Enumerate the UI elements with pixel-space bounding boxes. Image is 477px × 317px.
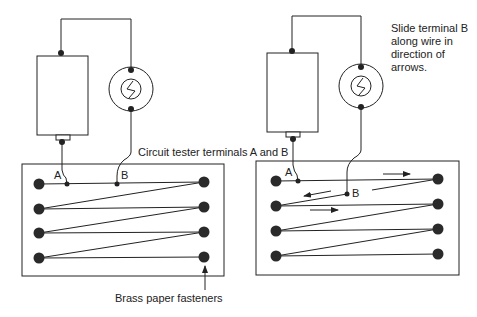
right-bulb-bottom-dot: [358, 104, 364, 110]
instruction-line: direction of: [391, 48, 477, 61]
right-bulb-top-dot: [358, 64, 364, 70]
fastener-icon: [199, 177, 210, 188]
left-battery-bottom-dot: [59, 139, 65, 145]
left-battery: [37, 56, 88, 135]
fastener-icon: [433, 174, 444, 185]
right-battery-top-dot: [289, 48, 295, 54]
fastener-icon: [34, 228, 45, 239]
left-terminal-b-dot: [115, 182, 120, 187]
arrow-left-icon: [304, 191, 331, 196]
left-zigzag-wire: [39, 182, 204, 258]
right-board: [256, 161, 459, 275]
right-wire-a: [293, 139, 298, 181]
right-terminal-b-dot: [345, 192, 350, 197]
fastener-icon: [199, 227, 210, 238]
right-terminal-a-dot: [296, 179, 301, 184]
left-terminal-b-label: B: [121, 169, 128, 181]
right-wire-seg2b: [276, 194, 347, 206]
right-zigzag-wire: [276, 204, 438, 256]
terminals-caption: Circuit tester terminals A and B: [138, 146, 288, 158]
fastener-icon: [271, 226, 282, 237]
fastener-icon: [34, 204, 45, 215]
left-bulb-bottom-dot: [128, 106, 134, 112]
left-battery-top-dot: [58, 50, 64, 56]
left-wire-a: [62, 142, 67, 184]
right-terminal-a-label: A: [285, 166, 292, 178]
right-wire-b: [347, 107, 361, 194]
left-bulb: [109, 67, 153, 111]
right-battery: [267, 53, 318, 132]
diagram: Circuit tester terminals A and B Brass p…: [0, 0, 477, 317]
fastener-icon: [34, 179, 45, 190]
fastener-icon: [433, 249, 444, 260]
fastener-icon: [199, 252, 210, 263]
right-terminal-b-label: B: [352, 187, 359, 199]
right-wire-seg2a: [372, 179, 438, 190]
fastener-icon: [271, 201, 282, 212]
brass-fasteners: [34, 174, 444, 264]
instruction-line: Slide terminal B: [391, 22, 477, 35]
right-bulb: [339, 64, 383, 108]
fastener-icon: [271, 176, 282, 187]
instruction-line: arrows.: [391, 61, 477, 74]
fasteners-caption: Brass paper fasteners: [115, 292, 223, 304]
instruction-line: along wire in: [391, 35, 477, 48]
instruction-note: Slide terminal B along wire in direction…: [391, 22, 477, 74]
fastener-icon: [271, 251, 282, 262]
left-terminal-a-label: A: [54, 169, 61, 181]
fastener-icon: [433, 199, 444, 210]
fastener-icon: [34, 253, 45, 264]
right-battery-bottom-dot: [290, 136, 296, 142]
left-bulb-top-dot: [128, 67, 134, 73]
left-terminal-a-dot: [65, 182, 70, 187]
fastener-icon: [433, 224, 444, 235]
fastener-icon: [199, 202, 210, 213]
